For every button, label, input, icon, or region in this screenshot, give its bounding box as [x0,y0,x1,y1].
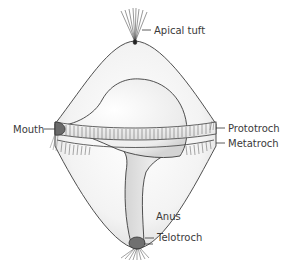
label-prototroch: Prototroch [228,123,280,134]
trochophore-diagram: Apical tuft Mouth Prototroch Metatroch A… [0,0,289,260]
label-anus: Anus [156,211,181,222]
label-apical-tuft: Apical tuft [154,25,205,36]
telotroch-tuft [121,248,149,260]
label-telotroch: Telotroch [156,232,202,243]
apical-tuft [121,8,147,45]
anus [129,237,145,249]
label-metatroch: Metatroch [228,138,279,149]
label-mouth: Mouth [13,124,44,135]
